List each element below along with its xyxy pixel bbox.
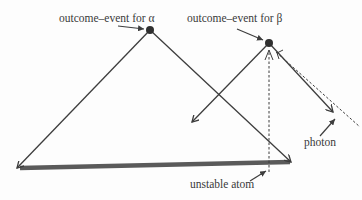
beta-event-label: outcome–event for β	[187, 12, 282, 25]
atom-worldline-bar	[20, 162, 290, 168]
alpha-right-line	[150, 30, 291, 162]
alpha-event-dot	[146, 26, 154, 34]
beta-right-line	[269, 43, 333, 112]
photon-label-arrow	[320, 119, 335, 136]
alpha-left-line	[17, 30, 150, 168]
alpha-event-label: outcome–event for α	[59, 12, 154, 24]
spacetime-diagram: outcome–event for α outcome–event for β …	[0, 0, 362, 200]
photon-label: photon	[304, 136, 336, 149]
beta-event-dot	[265, 39, 273, 47]
alpha-label-arrow	[118, 26, 144, 29]
beta-label-arrow	[237, 29, 263, 40]
beta-left-line	[192, 43, 269, 122]
unstable-atom-label: unstable atom	[190, 178, 254, 190]
diagram-canvas: outcome–event for α outcome–event for β …	[0, 0, 362, 200]
